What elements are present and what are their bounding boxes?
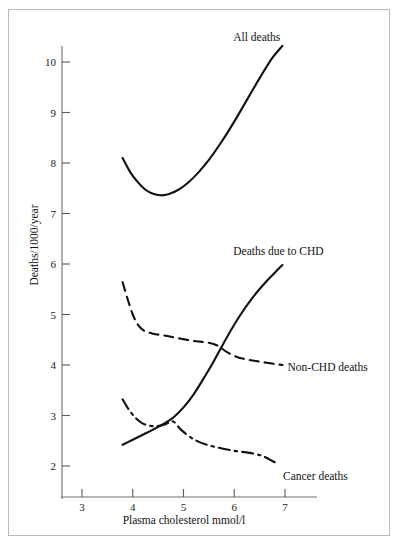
axes-group <box>61 46 317 499</box>
x-tick-label: 7 <box>282 501 288 513</box>
ticks-group <box>62 62 285 497</box>
x-tick-label: 5 <box>181 501 187 513</box>
x-tick-label: 6 <box>232 501 238 513</box>
series-label: Cancer deaths <box>283 470 348 482</box>
series-curve <box>123 265 283 445</box>
x-tick-label: 4 <box>130 501 136 513</box>
series-label: All deaths <box>233 31 280 43</box>
series-curve <box>123 282 283 365</box>
y-tick-label: 9 <box>36 107 56 119</box>
x-tick-label: 3 <box>79 501 85 513</box>
series-label: Non-CHD deaths <box>288 361 368 373</box>
y-tick-label: 4 <box>36 359 56 371</box>
y-axis-title: Deaths/1000/year <box>28 204 40 285</box>
series-label: Deaths due to CHD <box>233 245 323 257</box>
x-axis-title: Plasma cholesterol mmol/l <box>123 514 246 526</box>
y-tick-label: 5 <box>36 309 56 321</box>
figure-page: 2345678910 34567 All deathsDeaths due to… <box>0 0 401 554</box>
series-curve <box>123 399 279 464</box>
y-tick-label: 2 <box>36 460 56 472</box>
series-curve <box>123 46 283 195</box>
y-tick-label: 8 <box>36 157 56 169</box>
y-tick-label: 3 <box>36 410 56 422</box>
y-tick-label: 10 <box>36 56 56 68</box>
